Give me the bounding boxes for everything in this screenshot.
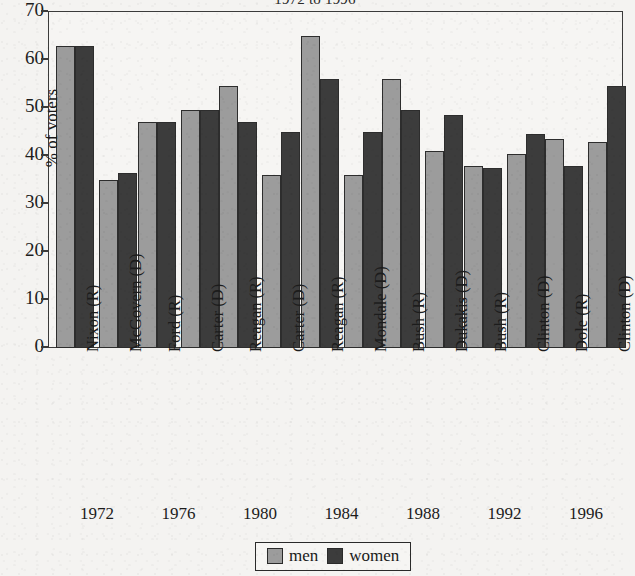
y-axis-tick-mark — [41, 250, 48, 251]
x-axis-candidate-label: McGovern (D) — [126, 204, 146, 352]
y-axis-label: % of voters — [42, 68, 62, 188]
x-axis-candidate-label: Bush (R) — [491, 204, 511, 352]
y-axis-tick-label: 60 — [0, 48, 44, 67]
y-axis-tick-label: 40 — [0, 144, 44, 163]
y-axis-tick-mark — [41, 10, 48, 11]
x-axis-year-label: 1992 — [469, 504, 539, 524]
x-axis-year-label: 1988 — [388, 504, 458, 524]
chart-legend: men women — [255, 542, 411, 571]
x-axis-candidate-label: Clinton (D) — [534, 204, 554, 352]
x-axis-candidate-label: Nixon (R) — [83, 204, 103, 352]
x-axis-candidate-label: Reagan (R) — [246, 204, 266, 352]
x-axis-candidate-label: Carter (D) — [289, 204, 309, 352]
y-axis-tick-mark — [41, 346, 48, 347]
y-axis-tick-mark — [41, 202, 48, 203]
x-axis-year-label: 1972 — [62, 504, 132, 524]
y-axis-tick-label: 10 — [0, 288, 44, 307]
y-axis-tick-label: 70 — [0, 0, 44, 19]
x-axis-candidate-labels: Nixon (R)McGovern (D)Ford (R)Carter (D)R… — [0, 352, 630, 502]
y-axis-tick-label: 50 — [0, 96, 44, 115]
x-axis-year-label: 1984 — [306, 504, 376, 524]
x-axis-candidate-label: Carter (D) — [208, 204, 228, 352]
y-axis-tick-mark — [41, 298, 48, 299]
x-axis-year-labels: 1972197619801984198819921996 — [0, 504, 630, 530]
x-axis-candidate-label: Bush (R) — [409, 204, 429, 352]
x-axis-candidate-label: Reagan (R) — [328, 204, 348, 352]
x-axis-year-label: 1996 — [551, 504, 621, 524]
legend-item-men: men — [267, 546, 318, 566]
x-axis-candidate-label: Ford (R) — [165, 204, 185, 352]
x-axis-year-label: 1976 — [143, 504, 213, 524]
x-axis-candidate-label: Dole (R) — [572, 204, 592, 352]
y-axis-tick-label: 20 — [0, 240, 44, 259]
legend-label-women: women — [349, 546, 399, 566]
y-axis-tick-mark — [41, 58, 48, 59]
x-axis-candidate-label: Mondale (D) — [371, 204, 391, 352]
x-axis-candidate-label: Clinton (D) — [615, 204, 635, 352]
y-axis-tick-label: 30 — [0, 192, 44, 211]
legend-swatch-men-icon — [267, 548, 283, 564]
legend-swatch-women-icon — [327, 548, 343, 564]
x-axis-year-label: 1980 — [225, 504, 295, 524]
x-axis-candidate-label: Dukakis (D) — [452, 204, 472, 352]
legend-label-men: men — [289, 546, 318, 566]
legend-item-women: women — [327, 546, 399, 566]
